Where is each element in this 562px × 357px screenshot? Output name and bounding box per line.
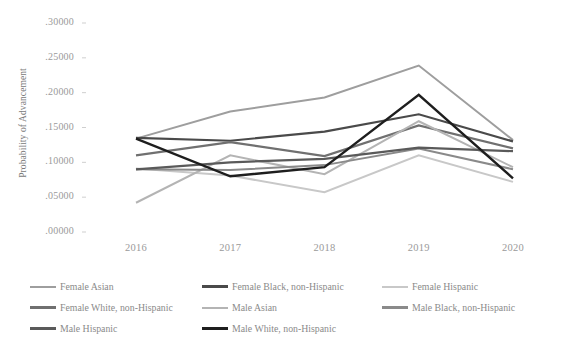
legend-item[interactable]: Male Asian <box>202 302 382 313</box>
legend-label: Male White, non-Hispanic <box>232 323 336 334</box>
legend-item[interactable]: Male White, non-Hispanic <box>202 323 382 334</box>
legend-item[interactable]: Female White, non-Hispanic <box>30 302 202 313</box>
legend-color-swatch-icon <box>30 306 56 308</box>
legend-color-swatch-icon <box>202 307 228 309</box>
plot-area <box>0 0 562 250</box>
series-line <box>136 125 513 156</box>
legend-label: Male Asian <box>232 302 277 313</box>
legend-label: Male Black, non-Hispanic <box>412 302 515 313</box>
legend-item[interactable]: Female Hispanic <box>382 281 550 292</box>
legend-label: Female Black, non-Hispanic <box>232 281 344 292</box>
x-tick-label: 2018 <box>295 242 355 253</box>
legend-label: Male Hispanic <box>60 323 117 334</box>
chart-legend: Female AsianFemale Black, non-HispanicFe… <box>30 276 550 339</box>
y-axis-ticks <box>82 23 86 232</box>
legend-item[interactable]: Male Black, non-Hispanic <box>382 302 550 313</box>
legend-label: Female White, non-Hispanic <box>60 302 173 313</box>
legend-label: Female Hispanic <box>412 281 478 292</box>
legend-item[interactable]: Female Asian <box>30 281 202 292</box>
legend-item[interactable]: Female Black, non-Hispanic <box>202 281 382 292</box>
legend-color-swatch-icon <box>30 286 56 288</box>
legend-color-swatch-icon <box>202 327 228 330</box>
legend-color-swatch-icon <box>202 285 228 288</box>
legend-row: Female White, non-HispanicMale AsianMale… <box>30 297 550 318</box>
legend-row: Female AsianFemale Black, non-HispanicFe… <box>30 276 550 297</box>
legend-row: Male HispanicMale White, non-Hispanic <box>30 318 550 339</box>
x-tick-label: 2020 <box>483 242 543 253</box>
legend-color-swatch-icon <box>382 306 408 308</box>
legend-color-swatch-icon <box>30 327 56 330</box>
x-tick-label: 2016 <box>106 242 166 253</box>
legend-item[interactable]: Male Hispanic <box>30 323 202 334</box>
legend-label: Female Asian <box>60 281 114 292</box>
line-chart-figure: Probability of Advancement .30000.25000.… <box>0 0 562 357</box>
x-tick-label: 2019 <box>389 242 449 253</box>
x-tick-label: 2017 <box>200 242 260 253</box>
legend-color-swatch-icon <box>382 286 408 288</box>
